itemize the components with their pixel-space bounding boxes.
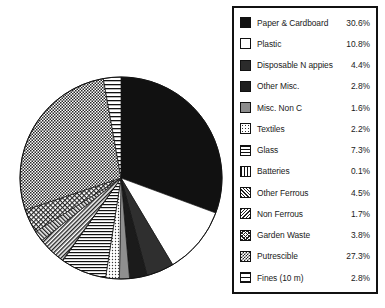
legend-item-value: 2.8% [340, 81, 372, 91]
legend-item-label: Other Ferrous [257, 188, 340, 198]
legend-item[interactable]: Paper & Cardboard30.6% [240, 13, 372, 32]
legend-item[interactable]: Garden Waste3.8% [240, 226, 372, 245]
legend-item-value: 4.4% [340, 60, 372, 70]
legend-item-value: 4.5% [340, 188, 372, 198]
legend-swatch-dark-1-icon [240, 60, 251, 71]
legend-item-label: Disposable N appies [257, 60, 340, 70]
legend-item-label: Textiles [257, 124, 340, 134]
legend-swatch-dots-light-icon [240, 123, 251, 134]
legend-item-value: 30.6% [340, 18, 372, 28]
legend-swatch-hstripe-icon [240, 145, 251, 156]
legend-item-value: 3.8% [340, 230, 372, 240]
legend-item-label: Fines (10 m) [257, 273, 340, 283]
legend: Paper & Cardboard30.6%Plastic10.8%Dispos… [232, 6, 378, 294]
legend-swatch-cross-icon [240, 230, 251, 241]
legend-item-label: Other Misc. [257, 81, 340, 91]
legend-item[interactable]: Fines (10 m)2.8% [240, 268, 372, 287]
legend-swatch-gray-mid-icon [240, 102, 251, 113]
pie-slice-group [20, 77, 222, 279]
legend-item-label: Non Ferrous [257, 209, 340, 219]
legend-item[interactable]: Misc. Non C1.6% [240, 98, 372, 117]
legend-item[interactable]: Putrescible27.3% [240, 247, 372, 266]
legend-swatch-checker-icon [240, 251, 251, 262]
legend-item-value: 2.2% [340, 124, 372, 134]
legend-swatch-diag-back-icon [240, 208, 251, 219]
legend-item[interactable]: Batteries0.1% [240, 162, 372, 181]
legend-item-value: 2.8% [340, 273, 372, 283]
legend-swatch-solid-black-icon [240, 17, 251, 28]
legend-item-label: Paper & Cardboard [257, 18, 340, 28]
legend-item-label: Misc. Non C [257, 103, 340, 113]
legend-swatch-vstripe-icon [240, 166, 251, 177]
legend-item[interactable]: Glass7.3% [240, 141, 372, 160]
legend-item[interactable]: Other Misc.2.8% [240, 77, 372, 96]
legend-item-label: Batteries [257, 166, 340, 176]
legend-item-value: 1.6% [340, 103, 372, 113]
legend-item-label: Glass [257, 145, 340, 155]
legend-item[interactable]: Other Ferrous4.5% [240, 183, 372, 202]
legend-item-value: 27.3% [340, 251, 372, 261]
legend-item[interactable]: Disposable N appies4.4% [240, 56, 372, 75]
legend-swatch-white-icon [240, 38, 251, 49]
legend-item-value: 7.3% [340, 145, 372, 155]
legend-swatch-diag-dense-icon [240, 187, 251, 198]
legend-item-value: 0.1% [340, 166, 372, 176]
legend-item[interactable]: Non Ferrous1.7% [240, 204, 372, 223]
pie-chart-figure: Paper & Cardboard30.6%Plastic10.8%Dispos… [0, 0, 385, 308]
pie-graphic [0, 0, 232, 308]
legend-item[interactable]: Textiles2.2% [240, 119, 372, 138]
legend-item-value: 10.8% [340, 39, 372, 49]
pie-svg [0, 0, 232, 308]
legend-item-value: 1.7% [340, 209, 372, 219]
legend-swatch-dark-2-icon [240, 81, 251, 92]
legend-item-label: Putrescible [257, 251, 340, 261]
legend-swatch-hstripe-wide-icon [240, 272, 251, 283]
legend-item[interactable]: Plastic10.8% [240, 34, 372, 53]
legend-item-label: Garden Waste [257, 230, 340, 240]
legend-item-label: Plastic [257, 39, 340, 49]
